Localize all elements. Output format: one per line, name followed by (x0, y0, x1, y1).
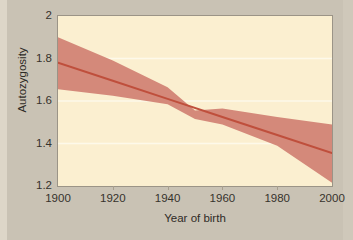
y-tick-label: 1.2 (8, 179, 52, 191)
x-tick-mark (222, 186, 223, 190)
x-tick-mark (113, 186, 114, 190)
y-tick-label: 1.6 (8, 94, 52, 106)
figure-canvas: 1.21.41.61.82190019201940196019802000 Ye… (0, 0, 353, 240)
y-tick-label: 1.4 (8, 137, 52, 149)
x-axis-title: Year of birth (57, 212, 333, 224)
x-tick-mark (168, 186, 169, 190)
y-axis-title: Autozygosity (16, 25, 28, 135)
y-tick-label: 2 (8, 9, 52, 21)
axis-tick-layer: 1.21.41.61.82190019201940196019802000 (0, 0, 353, 240)
x-tick-label: 1900 (35, 192, 81, 204)
x-tick-label: 1920 (90, 192, 136, 204)
x-tick-label: 1940 (145, 192, 191, 204)
x-tick-label: 2000 (309, 192, 353, 204)
x-tick-label: 1960 (199, 192, 245, 204)
y-tick-label: 1.8 (8, 52, 52, 64)
x-tick-label: 1980 (254, 192, 300, 204)
x-tick-mark (277, 186, 278, 190)
